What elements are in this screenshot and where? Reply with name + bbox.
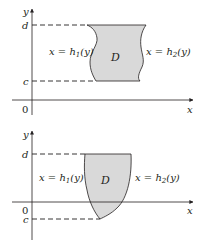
diagram-canvas: y x 0 d c D x = h1(y) x = h2(y) y x 0 d … xyxy=(0,0,208,240)
origin-label-top: 0 xyxy=(22,104,28,115)
y-axis-label-top: y xyxy=(22,6,29,17)
bottom-diagram: y x 0 d c D x = h1(y) x = h2(y) xyxy=(12,129,193,240)
region-label-bottom: D xyxy=(100,174,110,187)
right-curve-label-bottom: x = h2(y) xyxy=(135,172,180,185)
x-axis-label-top: x xyxy=(187,104,193,115)
upper-bound-label-bottom: d xyxy=(22,149,28,160)
left-curve-label-top: x = h1(y) xyxy=(49,46,94,59)
left-curve-label-bottom: x = h1(y) xyxy=(39,172,84,185)
upper-bound-label-top: d xyxy=(22,20,28,31)
lower-bound-label-bottom: c xyxy=(23,214,29,225)
lower-bound-label-top: c xyxy=(23,76,29,87)
top-diagram: y x 0 d c D x = h1(y) x = h2(y) xyxy=(12,6,193,115)
x-axis-label-bottom: x xyxy=(187,205,193,216)
right-curve-label-top: x = h2(y) xyxy=(146,46,191,59)
region-label-top: D xyxy=(110,51,120,64)
y-axis-label-bottom: y xyxy=(22,129,29,140)
